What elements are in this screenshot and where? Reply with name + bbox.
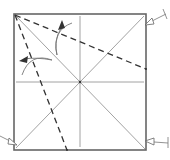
center-point-dot: [79, 81, 81, 83]
pointer-bottom-right-shaft: [154, 142, 168, 143]
bottom-edge-landmark-dot: [66, 149, 68, 151]
pointer-top-right-shaft: [152, 14, 166, 21]
pointer-top-right-tick: [163, 9, 167, 19]
pointer-bottom-right: [145, 137, 168, 148]
origami-diagram: [0, 0, 170, 160]
right-edge-landmark-dot: [145, 68, 147, 70]
pointer-top-right: [145, 9, 167, 25]
